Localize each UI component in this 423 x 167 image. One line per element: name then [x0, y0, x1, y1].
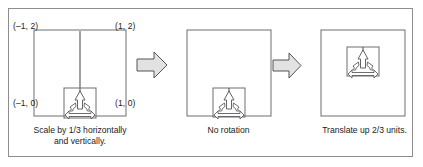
arrow-1-container: [136, 51, 168, 79]
arrow-2-container: [272, 52, 302, 79]
panel-1-caption-line-2: and vertically.: [10, 136, 150, 147]
arrow-1-right-icon: [136, 51, 168, 79]
panel-3-caption-line-1: Translate up 2/3 units.: [307, 125, 422, 136]
panel-1-scale: [33, 29, 127, 120]
panel-2-graphic: [186, 29, 276, 120]
panel-1-label-top-left: (–1, 2): [13, 21, 38, 31]
panel-1-graphic: [33, 29, 127, 120]
panel-2-caption-line-1: No rotation: [181, 125, 276, 136]
arrow-2-right-icon: [272, 52, 302, 79]
diagram-root: (–1, 2) (1, 2) (–1, 0) (1, 0) Scale by 1…: [0, 0, 423, 167]
panel-3-translate: [320, 29, 408, 120]
panel-3-graphic: [320, 29, 408, 120]
panel-2-no-rotation: [186, 29, 276, 120]
panel-1-label-top-right: (1, 2): [115, 21, 135, 31]
panel-1-label-bottom-right: (1, 0): [115, 98, 135, 108]
panel-1-caption-line-1: Scale by 1/3 horizontally: [10, 125, 150, 136]
panel-1-label-bottom-left: (–1, 0): [13, 98, 38, 108]
